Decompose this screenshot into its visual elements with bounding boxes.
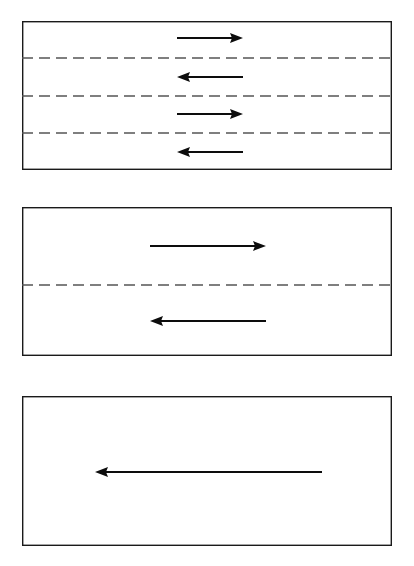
layered-shear-flow-diagram [0, 0, 414, 566]
panel-2 [22, 208, 392, 356]
figure-root [0, 0, 414, 566]
panel-3 [23, 397, 392, 546]
panel-2-frame [23, 208, 392, 356]
panel-1 [22, 22, 392, 170]
